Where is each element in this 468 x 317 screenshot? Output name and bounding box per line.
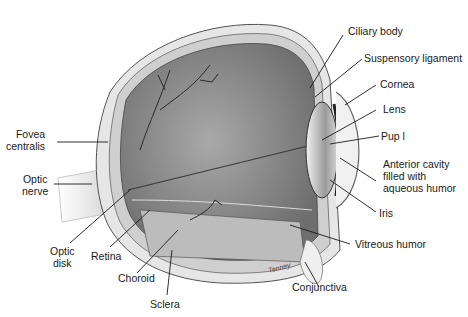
label-fovea-centralis: Fovea centralis	[6, 128, 45, 152]
label-retina: Retina	[91, 250, 121, 262]
label-optic-nerve: Optic nerve	[22, 173, 48, 197]
label-lens: Lens	[383, 103, 406, 115]
label-cornea: Cornea	[380, 78, 414, 90]
label-optic-disk: Optic disk	[50, 245, 75, 269]
label-ciliary-body: Ciliary body	[348, 25, 403, 37]
lens-shape	[306, 102, 338, 198]
label-conjunctiva: Conjunctiva	[292, 281, 347, 293]
cornea-shape	[336, 92, 359, 208]
label-sclera: Sclera	[150, 298, 180, 310]
label-anterior-cavity: Anterior cavity filled with aqueous humo…	[383, 158, 456, 194]
label-vitreous-humor: Vitreous humor	[355, 238, 426, 250]
label-pupil: Pup l	[381, 130, 405, 142]
label-suspensory-ligament: Suspensory ligament	[364, 52, 462, 64]
label-iris: Iris	[379, 207, 393, 219]
label-choroid: Choroid	[118, 272, 155, 284]
